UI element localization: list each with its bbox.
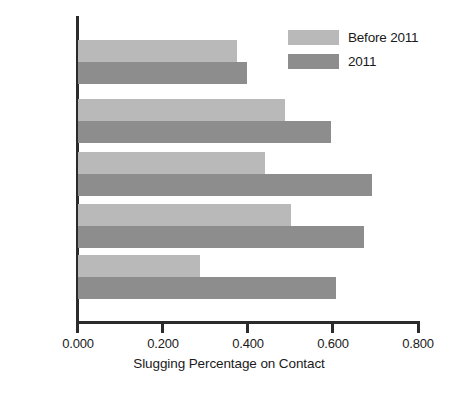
x-tick-mark-3 — [331, 324, 334, 333]
bar-low-iz-2011 — [78, 226, 364, 248]
bar-middle-before-2011 — [78, 152, 265, 174]
bar-middle-2011 — [78, 174, 372, 196]
bar-low-oz-before-2011 — [78, 255, 200, 277]
x-tick-mark-2 — [246, 324, 249, 333]
x-tick-label-2: 0.400 — [213, 336, 283, 351]
plot-area: High OZ High IZ Middle Low IZ Low OZ — [78, 18, 418, 320]
bar-high-oz-before-2011 — [78, 40, 237, 62]
x-tick-mark-4 — [417, 324, 420, 333]
x-tick-mark-1 — [161, 324, 164, 333]
x-tick-label-1: 0.200 — [128, 336, 198, 351]
x-tick-mark-0 — [76, 324, 79, 333]
x-axis-title: Slugging Percentage on Contact — [0, 356, 458, 371]
x-tick-label-4: 0.800 — [383, 336, 453, 351]
bar-low-oz-2011 — [78, 277, 336, 299]
bar-high-oz-2011 — [78, 62, 247, 84]
x-tick-label-3: 0.600 — [298, 336, 368, 351]
x-tick-label-0: 0.000 — [43, 336, 113, 351]
bar-high-iz-2011 — [78, 121, 331, 143]
bar-high-iz-before-2011 — [78, 99, 285, 121]
bar-low-iz-before-2011 — [78, 204, 291, 226]
bar-chart: Before 2011 2011 0.000 0.200 0.400 0.600… — [0, 0, 458, 395]
